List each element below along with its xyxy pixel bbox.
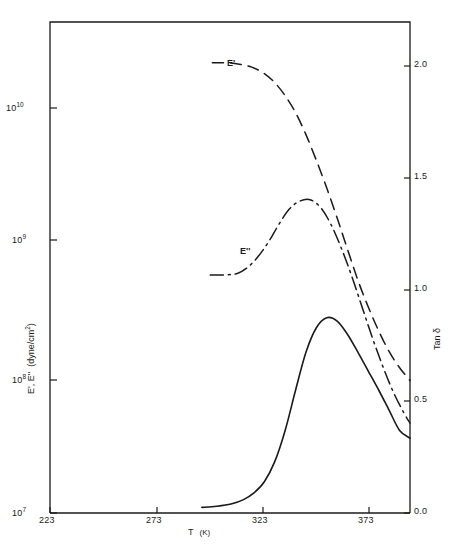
y-tick-label-1e7: 107 (12, 506, 26, 518)
plot-frame (50, 22, 410, 513)
tan-tick-label-2-0: 2.0 (414, 59, 427, 69)
y-tick-base-1e10: 10 (6, 103, 16, 113)
y-axis-left-title: E', E''(dyne/cm2) (24, 323, 36, 394)
chart-canvas (0, 0, 449, 549)
y-tick-base-1e9: 10 (12, 235, 22, 245)
curve-label-e-prime: E' (227, 58, 235, 68)
tan-tick-label-0-0: 0.0 (414, 506, 427, 516)
y-tick-label-1e9: 109 (12, 233, 26, 245)
x-tick-label-373: 373 (358, 515, 374, 525)
series-path-e (212, 63, 410, 381)
curve-label-e-double-prime: E'' (240, 246, 250, 256)
y-tick-exp-1e10: 10 (16, 101, 23, 108)
tan-tick-label-0-5: 0.5 (414, 394, 427, 404)
series-path-e (210, 199, 410, 423)
x-axis-ticks (50, 507, 369, 513)
y-axis-right-title: Tan δ (432, 328, 442, 350)
y-axis-left-ticks (50, 108, 57, 513)
y-tick-exp-1e7: 7 (22, 506, 26, 513)
frame-path (50, 22, 410, 513)
y-axis-right-ticks (404, 66, 410, 513)
x-tick-label-273: 273 (146, 515, 162, 525)
y-axis-left-title-paren: ) (26, 323, 36, 326)
y-axis-left-title-symbols: E', E'' (26, 372, 36, 394)
y-tick-base-1e8: 10 (12, 375, 22, 385)
y-tick-base-1e7: 10 (12, 508, 22, 518)
y-axis-left-title-exponent: 2 (24, 326, 31, 330)
x-axis-title-symbol: T (188, 527, 194, 537)
y-tick-label-1e10: 1010 (6, 101, 24, 113)
x-axis-title: T(K) (188, 527, 210, 537)
y-axis-left-title-unit: (dyne/cm (26, 330, 36, 367)
x-axis-title-unit: (K) (200, 528, 211, 537)
series-path-tandelta (202, 317, 410, 507)
tan-tick-label-1-5: 1.5 (414, 171, 427, 181)
x-tick-label-323: 323 (252, 515, 268, 525)
tan-tick-label-1-0: 1.0 (414, 283, 427, 293)
data-curves (202, 63, 410, 508)
x-tick-label-223: 223 (39, 515, 55, 525)
figure-container: 1010 109 108 107 2.0 1.5 1.0 0.5 0.0 223… (0, 0, 449, 549)
y-tick-exp-1e9: 9 (22, 233, 26, 240)
